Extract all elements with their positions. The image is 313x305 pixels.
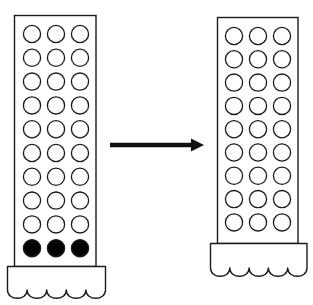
empty-circle xyxy=(249,214,266,231)
empty-circle xyxy=(23,25,40,42)
transition-arrow xyxy=(110,139,204,152)
empty-circle xyxy=(23,97,40,114)
empty-circle xyxy=(23,121,40,138)
empty-circle xyxy=(273,121,290,138)
empty-circle xyxy=(71,121,88,138)
empty-circle xyxy=(47,121,64,138)
empty-circle xyxy=(249,167,266,184)
empty-circle xyxy=(47,168,64,185)
empty-circle xyxy=(71,144,88,161)
empty-circle xyxy=(71,49,88,66)
empty-circle xyxy=(225,27,242,44)
empty-circle xyxy=(273,214,290,231)
diagram-canvas xyxy=(0,0,313,305)
filled-circle xyxy=(23,240,40,257)
empty-circle xyxy=(225,214,242,231)
empty-circle xyxy=(273,191,290,208)
empty-circle xyxy=(273,167,290,184)
empty-circle xyxy=(23,144,40,161)
empty-circle xyxy=(273,27,290,44)
empty-circle xyxy=(273,97,290,114)
before-column xyxy=(8,16,106,299)
scalloped-base xyxy=(211,244,308,277)
empty-circle xyxy=(225,121,242,138)
empty-circle xyxy=(71,25,88,42)
empty-circle xyxy=(249,27,266,44)
empty-circle xyxy=(225,144,242,161)
empty-circle xyxy=(71,216,88,233)
empty-circle xyxy=(249,144,266,161)
empty-circle xyxy=(47,97,64,114)
empty-circle xyxy=(71,97,88,114)
empty-circle xyxy=(47,49,64,66)
empty-circle xyxy=(71,168,88,185)
scalloped-base xyxy=(8,267,106,299)
empty-circle xyxy=(249,191,266,208)
after-column xyxy=(211,18,308,277)
filled-circle xyxy=(71,240,88,257)
empty-circle xyxy=(23,49,40,66)
arrowhead-icon xyxy=(191,139,204,152)
empty-circle xyxy=(71,192,88,209)
empty-circle xyxy=(249,97,266,114)
empty-circle xyxy=(47,73,64,90)
empty-circle xyxy=(23,192,40,209)
empty-circle xyxy=(47,25,64,42)
empty-circle xyxy=(225,97,242,114)
empty-circle xyxy=(47,192,64,209)
empty-circle xyxy=(47,216,64,233)
filled-circle xyxy=(47,240,64,257)
empty-circle xyxy=(249,51,266,68)
empty-circle xyxy=(225,51,242,68)
empty-circle xyxy=(225,74,242,91)
empty-circle xyxy=(249,121,266,138)
empty-circle xyxy=(71,73,88,90)
empty-circle xyxy=(23,168,40,185)
empty-circle xyxy=(273,144,290,161)
empty-circle xyxy=(225,167,242,184)
empty-circle xyxy=(47,144,64,161)
empty-circle xyxy=(225,191,242,208)
empty-circle xyxy=(23,73,40,90)
empty-circle xyxy=(273,51,290,68)
empty-circle xyxy=(249,74,266,91)
empty-circle xyxy=(273,74,290,91)
empty-circle xyxy=(23,216,40,233)
